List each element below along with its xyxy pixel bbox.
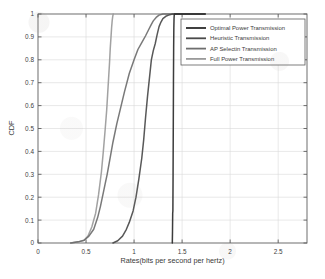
y-tick-label: 0.1 bbox=[25, 217, 34, 224]
y-axis-title: CDF bbox=[7, 120, 16, 136]
legend-label: AP Selectin Transmission bbox=[210, 46, 277, 52]
y-tick-label: 0.9 bbox=[25, 33, 34, 40]
x-axis-tick-labels: 00.511.522.5 bbox=[36, 248, 283, 255]
x-tick-label: 2 bbox=[228, 248, 232, 255]
x-tick-label: 1.5 bbox=[178, 248, 187, 255]
legend-label: Optimal Power Transmission bbox=[210, 25, 285, 31]
y-tick-label: 0.3 bbox=[25, 171, 34, 178]
x-tick-label: 0 bbox=[36, 248, 40, 255]
y-tick-label: 0.7 bbox=[25, 79, 34, 86]
x-tick-label: 1 bbox=[132, 248, 136, 255]
x-axis-title: Rates(bits per second per hertz) bbox=[120, 256, 224, 265]
plot-canvas: 00.511.522.5 00.10.20.30.40.50.60.70.80.… bbox=[0, 0, 325, 279]
y-tick-label: 0.2 bbox=[25, 194, 34, 201]
y-axis-tick-labels: 00.10.20.30.40.50.60.70.80.91 bbox=[25, 10, 34, 246]
y-tick-label: 0.6 bbox=[25, 102, 34, 109]
y-tick-label: 0.8 bbox=[25, 56, 34, 63]
y-tick-label: 0.5 bbox=[25, 125, 34, 132]
chart-legend[interactable]: Optimal Power TransmissionHeuristic Tran… bbox=[181, 19, 305, 65]
y-tick-label: 1 bbox=[30, 10, 34, 17]
x-tick-label: 0.5 bbox=[82, 248, 91, 255]
cdf-chart-figure: 00.511.522.5 00.10.20.30.40.50.60.70.80.… bbox=[0, 0, 325, 279]
y-tick-label: 0.4 bbox=[25, 148, 34, 155]
legend-label: Full Power Transmission bbox=[210, 56, 274, 62]
x-tick-label: 2.5 bbox=[274, 248, 283, 255]
y-tick-label: 0 bbox=[30, 239, 34, 246]
legend-label: Heuristic Transmission bbox=[210, 35, 269, 41]
